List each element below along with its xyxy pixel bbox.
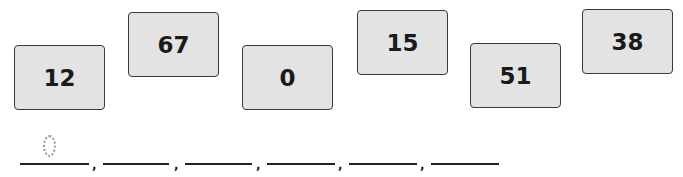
comma-separator: , xyxy=(420,158,425,172)
answer-blank-6[interactable] xyxy=(431,163,499,165)
answer-blank-1[interactable] xyxy=(20,163,89,165)
number-card: 15 xyxy=(357,10,448,75)
answer-blank-4[interactable] xyxy=(267,163,335,165)
number-card: 38 xyxy=(582,9,673,74)
number-card: 12 xyxy=(14,45,105,110)
comma-separator: , xyxy=(256,158,261,172)
card-value: 38 xyxy=(611,29,643,55)
answer-blank-2[interactable] xyxy=(103,163,169,165)
card-value: 0 xyxy=(279,65,295,91)
answer-blank-5[interactable] xyxy=(349,163,417,165)
card-value: 12 xyxy=(43,65,75,91)
answer-blank-3[interactable] xyxy=(185,163,252,165)
comma-separator: , xyxy=(338,158,343,172)
number-card: 0 xyxy=(242,45,333,110)
number-card: 51 xyxy=(470,43,561,108)
traced-zero-hint xyxy=(43,135,56,157)
card-value: 67 xyxy=(157,32,189,58)
card-value: 15 xyxy=(386,30,418,56)
comma-separator: , xyxy=(92,158,97,172)
number-card: 67 xyxy=(128,12,219,77)
comma-separator: , xyxy=(174,158,179,172)
card-value: 51 xyxy=(499,63,531,89)
